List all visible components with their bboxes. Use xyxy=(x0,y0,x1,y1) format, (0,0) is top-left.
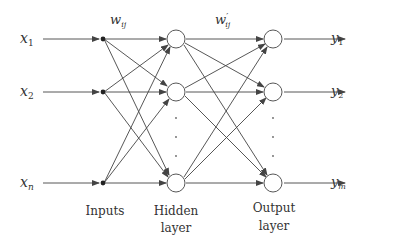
output-label-ym: ym xyxy=(330,174,346,191)
input-label-xn: xn xyxy=(20,174,34,192)
input-node-n xyxy=(101,181,106,186)
input-hidden-connections xyxy=(104,39,170,183)
input-label-x1: x1 xyxy=(20,30,34,48)
output-node-1 xyxy=(264,30,282,48)
input-node-1 xyxy=(101,37,106,42)
input-node-2 xyxy=(101,90,106,95)
output-arrows xyxy=(284,39,345,183)
hidden-layer-nodes xyxy=(167,30,185,192)
neural-network-diagram: x1 x2 xn y1 y2 ym wij w′ij Inputs Hidden… xyxy=(0,0,395,251)
hidden-layer-label-line2: layer xyxy=(161,221,192,235)
input-label-x2: x2 xyxy=(20,83,34,101)
input-arrows xyxy=(43,39,99,183)
inputs-label: Inputs xyxy=(86,204,125,218)
output-label-y1: y1 xyxy=(330,30,343,47)
hidden-node-n xyxy=(167,174,185,192)
hidden-node-1 xyxy=(167,30,185,48)
ellipsis-dots xyxy=(175,117,274,157)
input-nodes xyxy=(101,37,106,186)
weight-label-wij: wij xyxy=(110,12,127,29)
hidden-output-connections xyxy=(184,39,267,183)
output-layer-nodes xyxy=(264,30,282,192)
weight-label-wprime-ij: w′ij xyxy=(215,12,231,29)
output-layer-label-line1: Output xyxy=(253,201,296,215)
output-label-y2: y2 xyxy=(330,83,343,100)
output-node-2 xyxy=(264,83,282,101)
output-layer-label-line2: layer xyxy=(259,219,290,233)
output-node-m xyxy=(264,174,282,192)
hidden-node-2 xyxy=(167,83,185,101)
hidden-layer-label-line1: Hidden xyxy=(154,204,199,218)
